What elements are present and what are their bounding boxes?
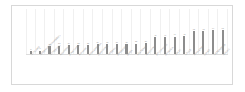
bar[interactable] [183, 36, 185, 54]
bar[interactable] [202, 31, 204, 54]
category-labels: GOTLANDÖREBRO/KOPPARBERGGÖTEBORGHALMSTAD… [26, 54, 228, 84]
bar-slot: 28 [132, 9, 142, 54]
bar-slot: 64 [209, 9, 219, 54]
bar-slot: 8 [26, 9, 36, 54]
chart-card: 8922232425252626272728294546474862636465… [11, 5, 233, 85]
bar[interactable] [212, 30, 214, 54]
bar-slot: 62 [190, 9, 200, 54]
bar-slot: 48 [180, 9, 190, 54]
category-label: UMEÅ [127, 50, 134, 57]
category-label: VÄXJÖ [175, 49, 183, 57]
category-label: LULEÅ [204, 49, 212, 57]
